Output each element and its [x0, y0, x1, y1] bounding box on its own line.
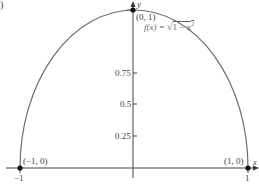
function-name: f(x) = — [144, 22, 167, 32]
y-tick-label-075: 0.75 — [115, 69, 131, 78]
label-point-0-1: (0, 1) — [136, 13, 156, 22]
figure-label: ) — [0, 0, 3, 10]
point-1-0 — [245, 165, 250, 170]
label-point-1-0: (1, 0) — [224, 157, 244, 166]
y-tick-label-05: 0.5 — [120, 100, 131, 109]
function-label: f(x) = √1 − x2 — [144, 21, 194, 32]
y-tick-label-025: 0.25 — [115, 132, 131, 141]
y-axis-label: y — [137, 0, 141, 9]
x-tick-label-m1: −1 — [14, 174, 24, 183]
y-axis-arrow-icon — [131, 1, 136, 7]
sqrt-body: 1 − x2 — [173, 22, 195, 32]
function-curve — [20, 10, 248, 168]
label-point-m1-0: (−1, 0) — [23, 157, 48, 166]
x-axis-label: x — [253, 159, 257, 167]
point-m1-0 — [17, 165, 22, 170]
x-tick-label-1: 1 — [245, 174, 250, 183]
point-0-1 — [130, 7, 135, 12]
